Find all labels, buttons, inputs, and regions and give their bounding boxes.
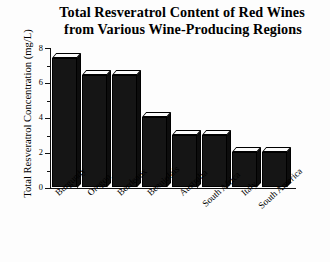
plot-area: 0 2 4 6 8 [50, 48, 295, 188]
y-tick-8 [45, 48, 50, 49]
bar-front-face [52, 58, 77, 188]
bar-side-face [107, 70, 111, 187]
chart-title-line-2: from Various Wine-Producing Regions [36, 21, 328, 38]
y-tick-6 [45, 83, 50, 84]
y-minor-tick-3 [47, 136, 50, 137]
y-minor-tick-5 [47, 101, 50, 102]
bar-side-face [257, 147, 261, 187]
y-tick-label-8: 8 [3, 45, 43, 53]
y-tick-label-0: 0 [3, 184, 43, 192]
y-tick-2 [45, 153, 50, 154]
bar-burgundy [52, 58, 77, 188]
y-tick-label-4: 4 [3, 114, 43, 122]
y-tick-label-6: 6 [3, 79, 43, 87]
y-minor-tick-7 [47, 66, 50, 67]
chart-figure: Total Resveratrol Content of Red Wines f… [0, 0, 330, 262]
y-tick-4 [45, 118, 50, 119]
chart-title: Total Resveratrol Content of Red Wines f… [36, 4, 328, 37]
chart-title-line-1: Total Resveratrol Content of Red Wines [36, 4, 328, 21]
bar-bordeaux [112, 75, 137, 187]
y-minor-tick-1 [47, 171, 50, 172]
bar-front-face [112, 75, 137, 187]
y-tick-label-2: 2 [3, 149, 43, 157]
y-tick-0 [45, 188, 50, 189]
